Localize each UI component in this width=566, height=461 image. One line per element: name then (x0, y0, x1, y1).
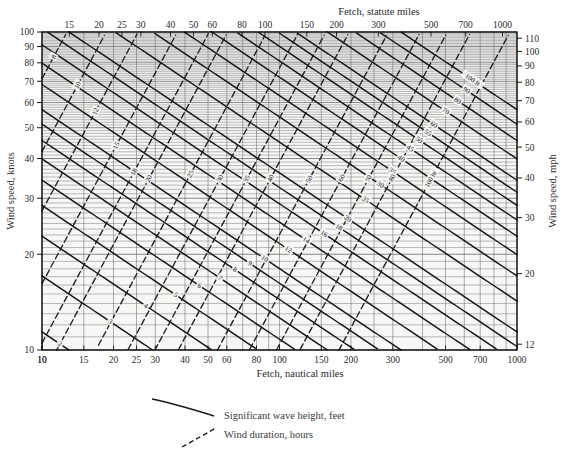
bottom-tick-label: 15 (79, 355, 89, 365)
top-tick-label: 50 (189, 20, 199, 30)
bottom-tick-label: 80 (252, 355, 262, 365)
top-tick-label: 40 (166, 20, 176, 30)
top-tick-label: 300 (371, 20, 386, 30)
left-tick-label: 20 (25, 250, 35, 260)
top-tick-label: 1000 (493, 20, 512, 30)
left-tick-label: 80 (25, 58, 35, 68)
left-tick-label: 70 (25, 77, 35, 87)
right-tick-label: 60 (525, 117, 535, 127)
top-tick-label: 20 (94, 20, 104, 30)
bottom-tick-label: 150 (314, 355, 329, 365)
left-tick-label: 50 (25, 123, 35, 133)
top-tick-label: 200 (329, 20, 344, 30)
top-tick-label: 80 (237, 20, 247, 30)
top-axis-title: Fetch, statute miles (338, 6, 419, 17)
top-tick-label: 15 (65, 20, 75, 30)
wave-forecasting-nomogram: 2345678910121416182025303540455055607080… (0, 0, 566, 461)
right-tick-label: 100 (525, 47, 540, 57)
bottom-tick-label: 40 (180, 355, 190, 365)
bottom-axis-title: Fetch, nautical miles (256, 368, 343, 379)
top-tick-label: 30 (136, 20, 146, 30)
right-tick-label: 70 (525, 96, 535, 106)
left-tick-label: 30 (25, 194, 35, 204)
right-tick-label: 50 (525, 143, 535, 153)
top-tick-label: 500 (424, 20, 439, 30)
left-tick-label: 10 (25, 345, 35, 355)
bottom-tick-label: 60 (222, 355, 232, 365)
right-tick-label: 20 (525, 269, 535, 279)
top-tick-label: 60 (208, 20, 218, 30)
left-tick-label: 60 (25, 98, 35, 108)
bottom-tick-label: 700 (473, 355, 488, 365)
right-tick-label: 30 (525, 213, 535, 223)
left-axis-title: Wind speed, knots (5, 152, 16, 229)
bottom-tick-label: 50 (203, 355, 213, 365)
top-tick-label: 700 (459, 20, 474, 30)
bottom-tick-label: 300 (386, 355, 401, 365)
bottom-tick-label: 25 (132, 355, 142, 365)
right-axis-title: Wind speed, mph (547, 154, 558, 228)
right-tick-label: 90 (525, 61, 535, 71)
legend-duration-label: Wind duration, hours (224, 429, 313, 440)
bottom-tick-label: 200 (344, 355, 359, 365)
legend-wave-label: Significant wave height, feet (224, 410, 345, 421)
left-tick-label: 100 (20, 27, 35, 37)
right-tick-label: 40 (525, 173, 535, 183)
right-tick-label: 12 (525, 340, 535, 350)
top-tick-label: 25 (117, 20, 127, 30)
right-tick-label: 110 (525, 34, 539, 44)
right-tick-label: 80 (525, 78, 535, 88)
top-tick-label: 100 (258, 20, 273, 30)
bottom-tick-label: 100 (272, 355, 287, 365)
bottom-tick-label: 20 (109, 355, 119, 365)
left-tick-label: 90 (25, 42, 35, 52)
bottom-tick-label: 1000 (508, 355, 527, 365)
bottom-tick-label: 500 (438, 355, 453, 365)
left-tick-label: 40 (25, 154, 35, 164)
bottom-tick-label: 10 (37, 355, 47, 365)
bottom-tick-label: 30 (151, 355, 161, 365)
top-tick-label: 150 (300, 20, 315, 30)
